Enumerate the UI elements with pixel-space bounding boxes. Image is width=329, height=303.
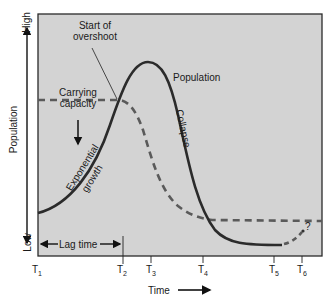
tick-t5: T5 xyxy=(269,264,279,277)
carrying-capacity-label: Carrying capacity xyxy=(50,87,106,109)
tick-t4: T4 xyxy=(198,264,208,277)
carrying-line2: capacity xyxy=(50,98,106,109)
lag-time-label: Lag time xyxy=(59,239,97,250)
start-overshoot-line1: Start of xyxy=(64,20,126,31)
tick-t2: T2 xyxy=(117,264,127,277)
question-mark-label: ? xyxy=(305,221,311,232)
tick-t1: T1 xyxy=(32,264,42,277)
x-axis-title: Time xyxy=(148,285,170,296)
y-low-label: Low xyxy=(22,233,33,251)
y-axis-title: Population xyxy=(8,106,19,153)
population-overshoot-diagram xyxy=(0,0,329,303)
carrying-line1: Carrying xyxy=(50,87,106,98)
tick-t3: T3 xyxy=(146,264,156,277)
tick-t6: T6 xyxy=(297,264,307,277)
start-overshoot-label: Start of overshoot xyxy=(64,20,126,42)
start-overshoot-line2: overshoot xyxy=(64,31,126,42)
population-series-label: Population xyxy=(173,72,220,83)
y-high-label: High xyxy=(21,12,32,33)
